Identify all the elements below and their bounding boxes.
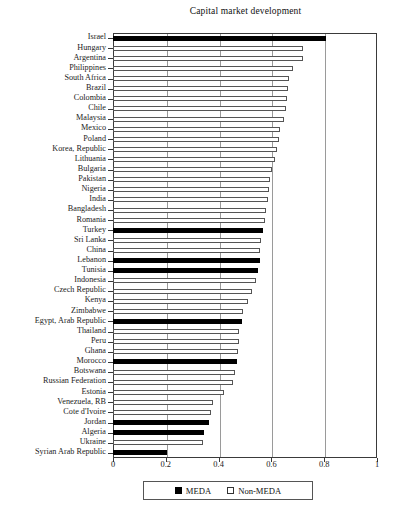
- y-tick-label: Jordan: [84, 417, 106, 427]
- y-tick-mark: [108, 311, 113, 312]
- bar-estonia: [113, 390, 224, 395]
- y-tick-label: Morocco: [76, 356, 106, 366]
- bar-tunisia: [113, 268, 258, 273]
- y-tick-label: Sri Lanka: [74, 235, 106, 245]
- bar-row: [113, 144, 377, 154]
- bar-ukraine: [113, 440, 203, 445]
- bar-pakistan: [113, 177, 270, 182]
- y-tick-mark: [108, 200, 113, 201]
- y-tick-mark: [108, 159, 113, 160]
- bar-row: [113, 428, 377, 438]
- y-tick-label: Chile: [88, 103, 106, 113]
- y-tick-mark: [108, 382, 113, 383]
- y-tick-mark: [108, 453, 113, 454]
- x-tick-label: 0.4: [207, 460, 231, 469]
- y-tick-label: Argentina: [73, 53, 106, 63]
- y-tick-label: Indonesia: [74, 275, 106, 285]
- bar-india: [113, 197, 268, 202]
- y-tick-label: Egypt, Arab Republic: [35, 316, 106, 326]
- y-tick-mark: [108, 139, 113, 140]
- y-tick-mark: [108, 79, 113, 80]
- y-tick-label: Nigeria: [81, 184, 106, 194]
- bar-israel: [113, 36, 326, 41]
- y-tick-mark: [108, 321, 113, 322]
- bar-row: [113, 367, 377, 377]
- y-tick-label: Peru: [91, 336, 106, 346]
- bar-row: [113, 134, 377, 144]
- bar-row: [113, 306, 377, 316]
- y-tick-mark: [108, 291, 113, 292]
- bar-philippines: [113, 66, 293, 71]
- y-tick-mark: [108, 109, 113, 110]
- y-tick-mark: [108, 332, 113, 333]
- bar-cote-d-ivoire: [113, 410, 211, 415]
- y-tick-label: Algeria: [81, 427, 106, 437]
- y-tick-mark: [108, 170, 113, 171]
- y-tick-label: Colombia: [74, 93, 106, 103]
- bar-korea-republic: [113, 147, 277, 152]
- y-tick-label: Botswana: [74, 366, 106, 376]
- bar-row: [113, 377, 377, 387]
- bar-row: [113, 154, 377, 164]
- bar-row: [113, 397, 377, 407]
- legend: MEDA Non-MEDA: [143, 481, 313, 500]
- bar-morocco: [113, 359, 237, 364]
- capital-market-development-chart: Capital market development IsraelHungary…: [0, 0, 395, 511]
- bar-row: [113, 124, 377, 134]
- y-tick-mark: [108, 210, 113, 211]
- y-tick-label: Venezuela, RB: [57, 397, 106, 407]
- bar-row: [113, 347, 377, 357]
- bar-algeria: [113, 430, 204, 435]
- bar-syrian-arab-republic: [113, 450, 167, 455]
- bar-romania: [113, 218, 265, 223]
- bar-row: [113, 185, 377, 195]
- y-tick-label: Malaysia: [76, 113, 106, 123]
- y-tick-label: Brazil: [86, 83, 106, 93]
- bar-chile: [113, 106, 286, 111]
- y-tick-label: Bangladesh: [68, 204, 106, 214]
- bar-jordan: [113, 420, 209, 425]
- y-tick-label: Ukraine: [80, 437, 106, 447]
- y-tick-mark: [108, 119, 113, 120]
- y-tick-label: South Africa: [64, 73, 106, 83]
- y-tick-mark: [108, 443, 113, 444]
- y-tick-mark: [108, 372, 113, 373]
- bar-row: [113, 225, 377, 235]
- bar-venezuela-rb: [113, 400, 213, 405]
- y-tick-mark: [108, 190, 113, 191]
- y-tick-mark: [108, 129, 113, 130]
- y-tick-mark: [108, 220, 113, 221]
- y-tick-mark: [108, 68, 113, 69]
- bar-row: [113, 215, 377, 225]
- x-tick-label: 0.8: [312, 460, 336, 469]
- y-tick-mark: [108, 281, 113, 282]
- x-tick-label: 0.6: [259, 460, 283, 469]
- y-tick-mark: [108, 58, 113, 59]
- bar-botswana: [113, 370, 235, 375]
- y-tick-mark: [108, 402, 113, 403]
- bars-layer: [113, 33, 377, 458]
- bar-row: [113, 73, 377, 83]
- bar-row: [113, 33, 377, 43]
- bar-row: [113, 276, 377, 286]
- legend-swatch-nonmeda: [227, 487, 234, 494]
- y-tick-label: China: [86, 245, 106, 255]
- x-tick-label: 0: [101, 460, 125, 469]
- y-tick-mark: [108, 261, 113, 262]
- y-tick-mark: [108, 352, 113, 353]
- y-tick-label: Romania: [76, 215, 106, 225]
- y-tick-label: Hungary: [77, 43, 106, 53]
- bar-russian-federation: [113, 380, 233, 385]
- bar-row: [113, 114, 377, 124]
- bar-lebanon: [113, 258, 260, 263]
- bar-row: [113, 337, 377, 347]
- y-tick-label: Ghana: [85, 346, 106, 356]
- bar-turkey: [113, 228, 263, 233]
- bar-kenya: [113, 299, 248, 304]
- y-tick-label: Tunisia: [82, 265, 106, 275]
- bar-row: [113, 84, 377, 94]
- bar-poland: [113, 137, 279, 142]
- y-tick-mark: [108, 342, 113, 343]
- legend-swatch-meda: [175, 487, 182, 494]
- bar-row: [113, 448, 377, 458]
